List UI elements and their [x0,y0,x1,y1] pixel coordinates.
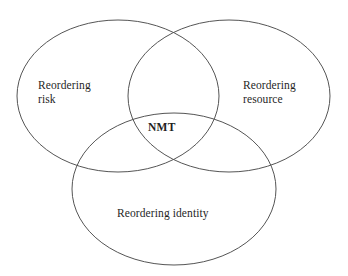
venn-circles-svg [0,0,348,276]
venn-ellipse-reordering-resource [128,20,330,172]
venn-diagram-figure: Reordering risk Reordering resource Reor… [0,0,348,276]
venn-label-nmt-intersection: NMT [148,120,176,134]
venn-label-reordering-identity: Reordering identity [117,206,209,220]
venn-ellipse-reordering-identity [72,113,276,265]
venn-label-reordering-resource: Reordering resource [243,78,296,106]
venn-label-reordering-risk: Reordering risk [38,78,91,106]
